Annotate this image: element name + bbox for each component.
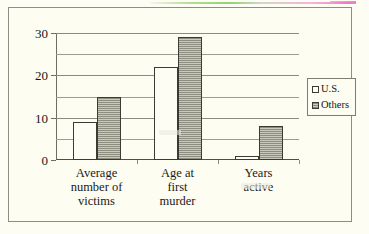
- bar-others: [97, 97, 121, 161]
- x-axis-tick: [299, 160, 300, 164]
- legend-swatch-others-icon: [312, 102, 319, 109]
- plot-area: 0102030: [56, 33, 299, 160]
- y-axis-tick-label: 30: [35, 27, 48, 40]
- legend-label-others: Others: [321, 99, 349, 111]
- chart-frame: 0102030 Averagenumber ofvictimsAge atfir…: [8, 7, 352, 222]
- x-axis-category-label: Yearsactive: [210, 166, 307, 194]
- x-axis-tick: [218, 160, 219, 164]
- x-axis-category-label-line: murder: [129, 194, 226, 208]
- scan-artifact-line: [150, 2, 356, 4]
- bar-us: [154, 67, 178, 160]
- x-axis-category-label-line: Years: [210, 166, 307, 180]
- y-axis-tick: [51, 118, 56, 119]
- y-axis-tick-label: 20: [35, 69, 48, 82]
- y-axis-tick: [51, 33, 56, 34]
- x-axis-category-label-line: active: [210, 180, 307, 194]
- bar-others: [259, 126, 283, 160]
- gridline-major: [56, 33, 299, 34]
- bar-us: [73, 122, 97, 160]
- scan-artifact-line-right: [330, 1, 356, 4]
- chart-legend: U.S. Others: [307, 78, 356, 116]
- y-axis-tick-label: 0: [42, 154, 49, 167]
- chart-screenshot: 0102030 Averagenumber ofvictimsAge atfir…: [0, 0, 369, 234]
- legend-label-us: U.S.: [321, 83, 340, 95]
- y-axis-tick-label: 10: [35, 111, 48, 124]
- y-axis-tick: [51, 160, 56, 161]
- bar-others: [178, 37, 202, 160]
- x-axis-tick: [137, 160, 138, 164]
- y-axis-tick: [51, 75, 56, 76]
- legend-swatch-us-icon: [312, 86, 319, 93]
- legend-item-others: Others: [312, 99, 352, 111]
- bar-us: [235, 156, 259, 160]
- legend-item-us: U.S.: [312, 83, 352, 95]
